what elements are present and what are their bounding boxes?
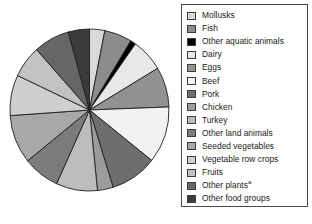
legend-color-swatch [187,195,196,203]
legend-color-swatch [187,116,196,124]
legend-item-label: Other land animals [202,129,273,138]
legend-item[interactable]: Beef [187,74,304,87]
legend-color-swatch [187,12,196,20]
legend-color-swatch [187,77,196,85]
legend-color-swatch [187,90,196,98]
legend-item-label: Fish [202,24,218,33]
legend-item[interactable]: Pork [187,88,304,101]
legend-item[interactable]: Dairy [187,48,304,61]
legend-item-list: MollusksFishOther aquatic animalsDairyEg… [187,9,304,205]
legend-color-swatch [187,169,196,177]
legend-item-label: Mollusks [202,11,235,20]
legend-item-label: Beef [202,77,219,86]
legend-item-label: Turkey [202,116,227,125]
legend-color-swatch [187,25,196,33]
legend-item[interactable]: Other aquatic animals [187,35,304,48]
legend-item-label: Other plantsa [202,181,251,190]
legend-item-label: Vegetable row crops [202,155,278,164]
legend-item[interactable]: Fruits [187,166,304,179]
legend-color-swatch [187,51,196,59]
legend-item-label: Other food groups [202,194,270,203]
chart-legend: MollusksFishOther aquatic animalsDairyEg… [181,4,308,207]
legend-item-label: Pork [202,90,219,99]
legend-color-swatch [187,182,196,190]
legend-item-label: Seeded vegetables [202,142,274,151]
legend-color-swatch [187,142,196,150]
legend-item[interactable]: Fish [187,22,304,35]
legend-item-label: Dairy [202,50,222,59]
legend-item[interactable]: Other food groups [187,192,304,205]
legend-item-label: Eggs [202,63,221,72]
legend-color-swatch [187,129,196,137]
legend-item[interactable]: Turkey [187,114,304,127]
legend-color-swatch [187,38,196,46]
legend-color-swatch [187,103,196,111]
legend-item[interactable]: Seeded vegetables [187,140,304,153]
legend-item[interactable]: Other plantsa [187,179,304,192]
legend-item-label: Other aquatic animals [202,37,284,46]
pie-slice-group [10,29,169,191]
pie-chart-svg [8,28,172,194]
legend-item[interactable]: Other land animals [187,127,304,140]
legend-item[interactable]: Vegetable row crops [187,153,304,166]
legend-item[interactable]: Eggs [187,61,304,74]
pie-chart-plot-area [8,28,172,194]
pie-chart-figure: MollusksFishOther aquatic animalsDairyEg… [0,0,312,224]
legend-color-swatch [187,156,196,164]
legend-item[interactable]: Mollusks [187,9,304,22]
legend-item[interactable]: Chicken [187,101,304,114]
legend-item-label: Fruits [202,168,223,177]
legend-color-swatch [187,64,196,72]
legend-item-label: Chicken [202,103,232,112]
legend-footnote-marker: a [248,179,251,185]
